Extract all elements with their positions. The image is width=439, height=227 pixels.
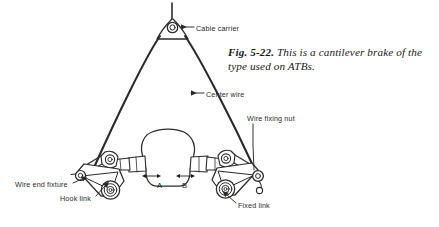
dimension-label-b: B [182,181,187,190]
callout-wire-end-fixture: Wire end fixture [15,180,68,189]
dimension-label-a: A [157,181,162,190]
left-brake-arm-icon [71,151,146,199]
callout-cable-carrier: Cable carrier [196,24,239,33]
cable-carrier-yoke-icon [157,19,188,39]
leader-wire-fixing-nut [253,124,254,170]
hook-icon [256,181,262,194]
cantilever-brake-diagram [0,0,439,227]
figure-caption: Fig. 5-22. This is a cantilever brake of… [228,46,428,73]
callout-hook-link: Hook link [60,194,91,203]
callout-fixed-link: Fixed link [238,201,270,210]
rim-tire-profile-icon [141,129,194,186]
figure-container: Fig. 5-22. This is a cantilever brake of… [0,0,439,227]
callout-center-wire: Center wire [206,90,244,99]
right-brake-arm-icon [190,150,263,198]
figure-number: Fig. 5-22. [228,46,274,58]
callout-wire-fixing-nut: Wire fixing nut [247,114,295,123]
